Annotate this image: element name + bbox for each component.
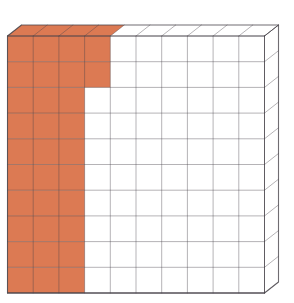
base-ten-flat-block xyxy=(0,0,294,303)
hundred-grid-diagram xyxy=(0,0,294,303)
